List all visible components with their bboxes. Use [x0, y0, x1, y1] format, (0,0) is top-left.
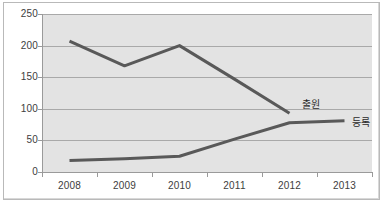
series-line	[70, 41, 290, 113]
series-label-출원: 출원	[302, 99, 320, 110]
series-line	[70, 121, 345, 161]
series-label-등록: 등록	[352, 117, 370, 128]
line-chart: 050100150200250 200820092010201120122013…	[0, 0, 385, 205]
series-lines	[0, 0, 385, 205]
